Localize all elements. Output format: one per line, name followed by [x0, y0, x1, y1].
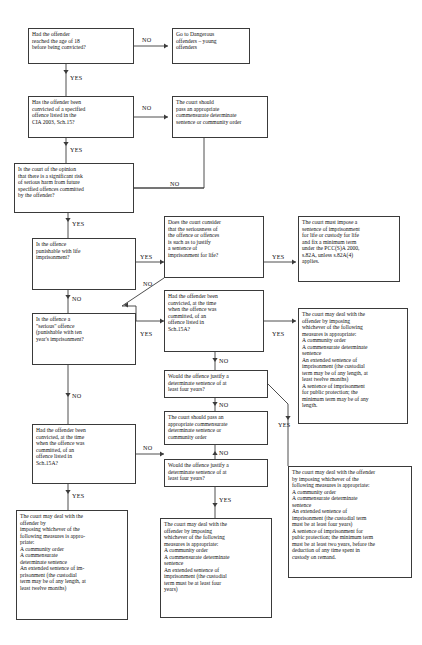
edge-label-lbl_yes_life: YES: [140, 253, 152, 260]
arrowhead-e_sch15a_left_no: [160, 451, 164, 456]
arrowhead-e_sch15a_mid_no: [212, 358, 217, 362]
edge-label-lbl_yes_serious_life: YES: [272, 253, 284, 260]
edge-label-lbl_yes_four_right: YES: [278, 421, 290, 428]
node-out_commensurate_top: The court should pass an appropriate com…: [172, 96, 268, 138]
edge-label-lbl_no_commensurate: NO: [219, 449, 228, 456]
arrowhead-e_sch15_no: [164, 114, 168, 119]
edge-label-lbl_yes_serious_ten: YES: [140, 330, 152, 337]
connector-e_commensurate_down: [122, 138, 204, 188]
node-q_sch15: Has the offender been convicted of a spe…: [28, 96, 134, 138]
edge-label-lbl_no_life: NO: [72, 295, 81, 302]
node-out_left_twelve: The court may deal with the offender by …: [16, 510, 128, 620]
arrowhead-e_four_top_no: [212, 402, 217, 406]
flowchart-canvas: Had the offender reached the age of 18 b…: [0, 0, 422, 645]
edge-label-lbl_yes_sch15: YES: [70, 146, 82, 153]
node-out_life_must: The court must impose a sentence of impr…: [298, 216, 400, 282]
edge-label-lbl_yes_age18: YES: [70, 74, 82, 81]
edge-label-lbl_no_sch15a_mid: NO: [219, 357, 228, 364]
edge-label-lbl_yes_sch15a_mid: YES: [272, 330, 284, 337]
arrowhead-e_sch15a_mid_yes: [292, 318, 296, 323]
edge-label-lbl_no_risk: NO: [170, 180, 179, 187]
arrowhead-e_four_top_yes: [285, 416, 290, 420]
arrowhead-e_commensurate_no: [212, 451, 217, 455]
edge-label-lbl_yes_sch15a_left: YES: [72, 492, 84, 499]
arrowhead-e_four_bot_yes: [212, 503, 217, 507]
node-q_serious_ten: Is the offence a "serious" offence (puni…: [32, 313, 136, 365]
node-out_four_years_public: The court may deal with the offender by …: [288, 466, 412, 578]
node-q_sch15a_left: Had the offender been convicted, at the …: [32, 424, 136, 484]
node-out_measures_twelve: The court may deal with the offender by …: [298, 308, 408, 424]
node-q_four_years_bot: Would the offence justify a determinate …: [164, 459, 268, 487]
edge-label-lbl_no_sch15: NO: [142, 104, 151, 111]
arrowhead-e_age18_yes: [63, 70, 68, 74]
node-q_risk: Is the court of the opinion that there i…: [14, 163, 134, 213]
node-out_mid_four: The court may deal with the offender by …: [160, 518, 272, 618]
arrowhead-e_age18_no: [164, 43, 168, 48]
node-q_serious_life: Does the court consider that the serious…: [164, 216, 264, 278]
edge-label-lbl_no_age18: NO: [142, 36, 151, 43]
node-q_sch15a_mid: Had the offender been convicted, at the …: [164, 290, 264, 352]
arrowhead-e_sch15a_left_yes: [65, 490, 70, 494]
node-out_commensurate_mid: The court should pass an appropriate com…: [164, 411, 268, 445]
node-q_age18: Had the offender reached the age of 18 b…: [28, 28, 134, 64]
node-q_four_years_top: Would the offence justify a determinate …: [164, 370, 268, 398]
arrowhead-e_risk_yes: [65, 218, 70, 222]
edge-label-lbl_no_serious_ten: NO: [72, 392, 81, 399]
node-out_young: Go to Dangerous offenders – young offend…: [172, 28, 250, 64]
arrowhead-e_serious_ten_no: [65, 393, 70, 397]
edge-label-lbl_no_four_top: NO: [219, 401, 228, 408]
arrowhead-e_sch15_yes: [63, 142, 68, 146]
edge-label-lbl_no_sch15a_left: NO: [143, 444, 152, 451]
edge-label-lbl_yes_risk: YES: [72, 220, 84, 227]
arrowhead-e_serious_life_yes: [292, 259, 296, 264]
edge-label-lbl_no_serious_life: NO: [143, 280, 152, 287]
arrowhead-e_life_no: [65, 295, 70, 299]
node-q_life: Is the offence punishable with life impr…: [32, 238, 136, 290]
edge-label-lbl_yes_four_bot: YES: [219, 496, 231, 503]
